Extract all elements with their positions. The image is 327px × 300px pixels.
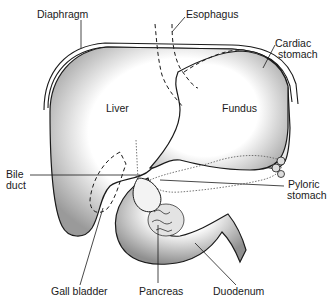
label-gall-bladder: Gall bladder [51, 286, 108, 297]
pylorus-shape [133, 178, 161, 212]
label-diaphragm: Diaphragm [37, 9, 88, 20]
label-bile-duct-line2: duct [6, 180, 26, 191]
label-pancreas: Pancreas [139, 286, 183, 297]
label-pyloric-stomach-line2: stomach [287, 190, 327, 201]
label-fundus: Fundus [222, 103, 257, 114]
label-liver: Liver [106, 103, 129, 114]
label-cardiac-stomach-line2: stomach [278, 49, 318, 60]
label-duodenum: Duodenum [213, 286, 264, 297]
label-esophagus: Esophagus [186, 9, 239, 20]
